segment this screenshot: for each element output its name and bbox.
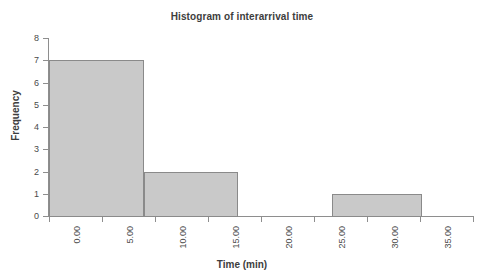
x-tick-label: 0.00 xyxy=(73,226,82,266)
x-tick-mark xyxy=(367,217,368,222)
y-tick-mark xyxy=(43,105,48,106)
y-tick-label: 7 xyxy=(15,56,39,65)
y-tick-label: 8 xyxy=(15,34,39,43)
x-tick-label: 15.00 xyxy=(232,226,241,266)
y-tick-mark xyxy=(43,216,48,217)
x-tick-mark xyxy=(420,217,421,222)
y-tick-mark xyxy=(43,127,48,128)
y-tick-label: 6 xyxy=(15,79,39,88)
x-tick-mark xyxy=(208,217,209,222)
x-tick-label: 5.00 xyxy=(126,226,135,266)
y-tick-label: 4 xyxy=(15,123,39,132)
histogram-bar xyxy=(49,60,144,217)
x-tick-label: 10.00 xyxy=(179,226,188,266)
y-tick-label: 1 xyxy=(15,190,39,199)
y-tick-mark xyxy=(43,60,48,61)
y-tick-mark xyxy=(43,194,48,195)
y-tick-mark xyxy=(43,83,48,84)
x-tick-mark xyxy=(261,217,262,222)
x-tick-label: 20.00 xyxy=(285,226,294,266)
y-tick-label: 3 xyxy=(15,145,39,154)
x-tick-mark xyxy=(49,217,50,222)
y-tick-label: 2 xyxy=(15,168,39,177)
histogram-bar xyxy=(332,194,422,217)
y-tick-mark xyxy=(43,38,48,39)
histogram-figure: Histogram of interarrival time Frequency… xyxy=(0,0,484,278)
histogram-bar xyxy=(144,172,238,217)
y-tick-label: 0 xyxy=(15,212,39,221)
y-tick-mark xyxy=(43,172,48,173)
x-tick-label: 35.00 xyxy=(444,226,453,266)
x-tick-mark xyxy=(102,217,103,222)
chart-title: Histogram of interarrival time xyxy=(0,11,484,22)
x-tick-mark xyxy=(473,217,474,222)
y-axis-title: Frequency xyxy=(10,61,21,171)
y-tick-mark xyxy=(43,149,48,150)
x-tick-mark xyxy=(314,217,315,222)
x-tick-label: 25.00 xyxy=(338,226,347,266)
x-tick-label: 30.00 xyxy=(391,226,400,266)
x-tick-mark xyxy=(155,217,156,222)
y-tick-label: 5 xyxy=(15,101,39,110)
